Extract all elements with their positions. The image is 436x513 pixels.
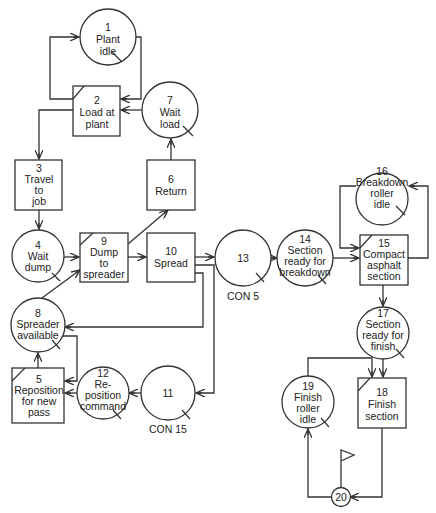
edge-15-to-16	[408, 186, 428, 258]
svg-text:pass: pass	[28, 406, 50, 418]
svg-text:spreader: spreader	[83, 268, 125, 280]
svg-text:load: load	[160, 118, 180, 130]
node-13-caption: CON 5	[227, 290, 259, 302]
svg-text:finish: finish	[371, 340, 396, 352]
node-6-return[interactable]: 6 Return	[147, 160, 195, 210]
node-1-plant-idle[interactable]: 1 Plant idle	[80, 9, 136, 65]
svg-text:available: available	[17, 329, 59, 341]
node-3-travel-to-job[interactable]: 3 Travel to job	[15, 160, 62, 210]
node-4-wait-dump[interactable]: 4 Wait dump	[12, 230, 64, 282]
edge-2-to-3	[39, 110, 73, 159]
edge-18-to-20	[350, 428, 382, 497]
svg-text:20: 20	[335, 491, 347, 503]
node-19-finish-roller-idle[interactable]: 19 Finish roller idle	[282, 376, 334, 428]
svg-text:idle: idle	[300, 413, 317, 425]
svg-text:13: 13	[237, 252, 249, 264]
edge-8-to-5	[63, 336, 77, 381]
svg-text:1: 1	[105, 21, 111, 33]
node-11-con15[interactable]: 11 CON 15	[141, 366, 195, 435]
svg-text:idle: idle	[100, 45, 117, 57]
node-15-compact-asphalt-section[interactable]: 15 Compact asphalt section	[360, 235, 408, 285]
svg-text:breakdown: breakdown	[279, 266, 331, 278]
svg-text:Return: Return	[155, 185, 187, 197]
node-9-dump-to-spreader[interactable]: 9 Dump to spreader	[80, 233, 128, 282]
flag-icon	[341, 450, 354, 488]
node-2-load-at-plant[interactable]: 2 Load at plant	[73, 86, 120, 136]
node-5-reposition-for-new-pass[interactable]: 5 Reposition for new pass	[12, 368, 64, 423]
svg-text:Plant: Plant	[96, 33, 120, 45]
node-17-section-ready-for-finish[interactable]: 17 Section ready for finish	[357, 307, 409, 359]
node-7-wait-load[interactable]: 7 Wait load	[142, 82, 198, 138]
svg-text:11: 11	[163, 387, 174, 399]
node-13-con5[interactable]: 13 CON 5	[215, 230, 271, 302]
node-20-counter[interactable]: 20	[332, 488, 351, 507]
node-12-reposition-command[interactable]: 12 Re- position command	[77, 367, 129, 419]
node-18-finish-section[interactable]: 18 Finish section	[358, 378, 406, 428]
svg-text:command: command	[80, 400, 126, 412]
node-14-section-ready-for-breakdown[interactable]: 14 Section ready for breakdown	[277, 230, 333, 286]
edge-19-to-18	[308, 358, 372, 377]
svg-text:6: 6	[168, 173, 174, 185]
node-10-spread[interactable]: 10 Spread	[147, 233, 195, 282]
node-16-breakdown-roller-idle[interactable]: 16 Breakdown roller idle	[356, 165, 409, 225]
svg-text:section: section	[365, 410, 398, 422]
svg-text:7: 7	[167, 94, 173, 106]
edge-10-to-11	[195, 265, 214, 393]
svg-text:job: job	[31, 195, 46, 207]
node-11-caption: CON 15	[149, 423, 187, 435]
svg-text:Spread: Spread	[154, 257, 188, 269]
svg-text:plant: plant	[86, 118, 109, 130]
svg-text:Load at: Load at	[79, 106, 114, 118]
edge-20-to-19	[308, 429, 331, 497]
svg-text:Finish: Finish	[368, 398, 396, 410]
svg-text:18: 18	[376, 386, 388, 398]
svg-text:2: 2	[94, 94, 100, 106]
cyclone-network-diagram: 1 Plant idle 2 Load at plant 7 Wait load…	[0, 0, 436, 513]
svg-text:10: 10	[165, 245, 177, 257]
svg-text:dump: dump	[25, 261, 51, 273]
svg-text:Wait: Wait	[160, 106, 181, 118]
node-8-spreader-available[interactable]: 8 Spreader available	[11, 298, 65, 352]
svg-text:section: section	[367, 270, 400, 282]
svg-text:idle: idle	[374, 198, 391, 210]
